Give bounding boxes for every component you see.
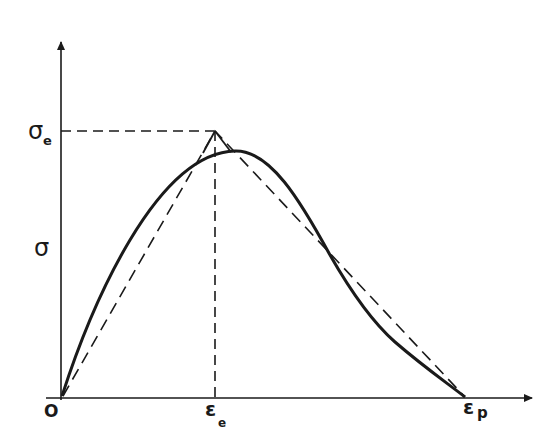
bilinear-approximation	[63, 131, 465, 397]
svg-text:ε: ε	[205, 397, 216, 421]
svg-text:e: e	[218, 416, 226, 430]
svg-text:ε: ε	[463, 395, 474, 419]
eps-p-label: ε p	[463, 395, 488, 422]
sigma-e-label: σ e	[28, 117, 52, 148]
eps-e-label: ε e	[205, 397, 226, 430]
svg-text:p: p	[477, 404, 488, 422]
y-axis-label: σ	[34, 234, 49, 262]
svg-text:σ: σ	[28, 117, 43, 145]
origin-label: O	[44, 401, 58, 421]
peak-tip-left	[203, 131, 215, 153]
stress-strain-diagram: σ e σ O ε e ε p	[0, 0, 550, 446]
peak-tip-right	[215, 131, 231, 152]
svg-text:e: e	[43, 133, 52, 148]
stress-strain-curve	[62, 151, 465, 397]
